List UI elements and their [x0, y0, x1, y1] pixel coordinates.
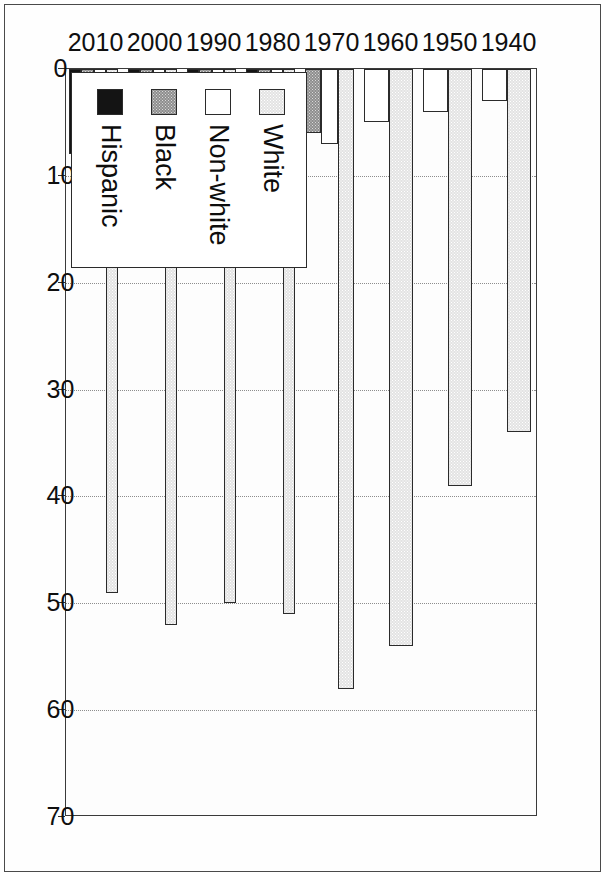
bar-white-1940 — [506, 69, 530, 432]
chart-legend: WhiteNon-whiteBlackHispanic — [71, 72, 307, 268]
bar-non-white-1970 — [321, 69, 337, 144]
category-tick-text: 2010 — [44, 28, 148, 57]
legend-label: Non-white — [203, 124, 234, 246]
rotated-chart-stage: 706050403020100 194019501960197019801990… — [43, 32, 563, 844]
legend-item-black: Black — [149, 89, 180, 190]
value-tick-text: 50 — [34, 588, 86, 617]
value-tick-text: 40 — [34, 481, 86, 510]
legend-item-hispanic: Hispanic — [95, 89, 126, 228]
value-tick-text: 60 — [34, 695, 86, 724]
category-row — [482, 69, 531, 815]
bar-white-1950 — [447, 69, 471, 486]
legend-swatch-hispanic-icon — [97, 89, 123, 115]
legend-item-non-white: Non-white — [203, 89, 234, 246]
bar-white-1960 — [388, 69, 412, 646]
chart-page: 706050403020100 194019501960197019801990… — [0, 0, 605, 876]
legend-items: WhiteNon-whiteBlackHispanic — [72, 73, 306, 267]
bar-non-white-1940 — [482, 69, 506, 101]
value-tick-text: 70 — [34, 802, 86, 831]
plot-wrapper: 706050403020100 194019501960197019801990… — [43, 32, 563, 844]
legend-item-white: White — [257, 89, 288, 193]
value-tick-text: 20 — [34, 267, 86, 296]
bar-white-1970 — [337, 69, 353, 689]
value-tick-text: 30 — [34, 374, 86, 403]
bar-non-white-1960 — [364, 69, 388, 122]
legend-swatch-white-icon — [259, 89, 285, 115]
category-row — [305, 69, 354, 815]
category-row — [364, 69, 413, 815]
bar-non-white-1950 — [423, 69, 447, 112]
legend-swatch-black-icon — [151, 89, 177, 115]
legend-swatch-non-white-icon — [205, 89, 231, 115]
legend-label: Hispanic — [95, 124, 126, 228]
legend-label: White — [257, 124, 288, 193]
category-row — [423, 69, 472, 815]
legend-label: Black — [149, 124, 180, 190]
